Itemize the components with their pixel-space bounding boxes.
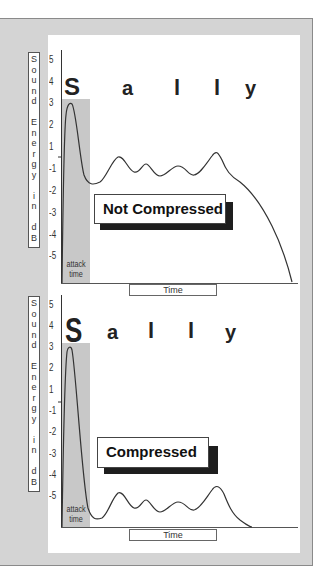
status-label-compressed: Compressed bbox=[97, 437, 209, 468]
x-axis-label: Time bbox=[129, 529, 217, 541]
waveform-compressed bbox=[0, 0, 327, 586]
